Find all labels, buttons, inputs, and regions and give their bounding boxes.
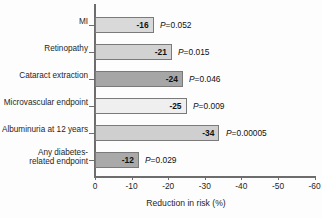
p-value-annotation: P=0.015 bbox=[178, 47, 209, 57]
x-tick-label: -50 bbox=[272, 181, 284, 191]
bar-row: Any diabetes- related endpoint -12 P=0.0… bbox=[0, 152, 322, 168]
bar-row: Cataract extraction -24 P=0.046 bbox=[0, 71, 322, 87]
category-label: Any diabetes- related endpoint bbox=[0, 148, 88, 167]
bar: -34 bbox=[95, 125, 219, 141]
bar-row: MI -16 P=0.052 bbox=[0, 17, 322, 33]
p-value-number: =0.029 bbox=[151, 155, 177, 165]
p-value-number: =0.00005 bbox=[232, 128, 267, 138]
x-axis-ticks: 0 -10 -20 -30 -40 -50 -60 bbox=[0, 176, 322, 198]
bar-row: Microvascular endpoint -25 P=0.009 bbox=[0, 98, 322, 114]
p-value-number: =0.009 bbox=[199, 101, 225, 111]
category-tick bbox=[89, 52, 94, 53]
bar-row: Albuminuria at 12 years -34 P=0.00005 bbox=[0, 125, 322, 141]
bar-value-label: -34 bbox=[202, 128, 214, 138]
p-value-annotation: P=0.052 bbox=[160, 20, 191, 30]
x-tick-label: -60 bbox=[309, 181, 321, 191]
p-value-number: =0.052 bbox=[166, 20, 192, 30]
category-tick bbox=[89, 133, 94, 134]
p-value-annotation: P=0.029 bbox=[145, 155, 176, 165]
bar-value-label: -21 bbox=[155, 47, 167, 57]
x-axis-title: Reduction in risk (%) bbox=[0, 198, 322, 208]
bar-value-label: -12 bbox=[122, 155, 134, 165]
x-tick-stem bbox=[241, 176, 242, 180]
x-tick-stem bbox=[132, 176, 133, 180]
x-tick-stem bbox=[205, 176, 206, 180]
bar-value-label: -24 bbox=[166, 74, 178, 84]
bar-row: Retinopathy -21 P=0.015 bbox=[0, 44, 322, 60]
x-tick-stem bbox=[278, 176, 279, 180]
bar-chart: MI -16 P=0.052 Retinopathy -21 P=0.015 C… bbox=[0, 0, 322, 218]
bar: -25 bbox=[95, 98, 187, 114]
p-value-annotation: P=0.009 bbox=[193, 101, 224, 111]
bar-value-label: -25 bbox=[169, 101, 181, 111]
category-label: Microvascular endpoint bbox=[0, 98, 88, 107]
x-tick-stem bbox=[95, 176, 96, 180]
x-tick-label: -40 bbox=[235, 181, 247, 191]
x-axis-title-text: Reduction in risk (%) bbox=[146, 198, 225, 208]
x-tick-label: -30 bbox=[199, 181, 211, 191]
x-tick-label: -20 bbox=[162, 181, 174, 191]
bar: -12 bbox=[95, 152, 139, 168]
category-tick bbox=[89, 79, 94, 80]
x-tick-stem bbox=[168, 176, 169, 180]
x-tick-label: -10 bbox=[126, 181, 138, 191]
p-value-annotation: P=0.00005 bbox=[226, 128, 267, 138]
p-value-number: =0.046 bbox=[195, 74, 221, 84]
p-value-number: =0.015 bbox=[184, 47, 210, 57]
bar: -24 bbox=[95, 71, 183, 87]
bar-value-label: -16 bbox=[136, 20, 148, 30]
bar-rows: MI -16 P=0.052 Retinopathy -21 P=0.015 C… bbox=[0, 0, 322, 176]
bar: -16 bbox=[95, 17, 154, 33]
category-label: Retinopathy bbox=[0, 44, 88, 53]
category-tick bbox=[89, 160, 94, 161]
category-tick bbox=[89, 25, 94, 26]
bar: -21 bbox=[95, 44, 172, 60]
p-value-annotation: P=0.046 bbox=[189, 74, 220, 84]
category-label: Cataract extraction bbox=[0, 71, 88, 80]
x-tick-label: 0 bbox=[93, 181, 98, 191]
category-label: MI bbox=[0, 17, 88, 26]
category-tick bbox=[89, 106, 94, 107]
category-label: Albuminuria at 12 years bbox=[0, 125, 88, 134]
x-tick-stem bbox=[315, 176, 316, 180]
